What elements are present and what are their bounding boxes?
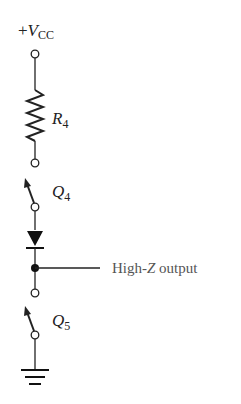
ground-icon xyxy=(21,370,49,384)
vcc-label: +VCC xyxy=(18,21,54,42)
switch-q5 xyxy=(24,289,39,339)
r4-label: R4 xyxy=(51,109,68,131)
output-label: High-Z output xyxy=(112,260,198,276)
circuit-diagram: +VCC R4 Q4 High-Z output Q5 xyxy=(0,0,241,404)
diode xyxy=(26,231,44,248)
q4-label: Q4 xyxy=(52,182,70,204)
resistor-r4 xyxy=(27,90,43,141)
switch-q4 xyxy=(24,159,39,211)
vcc-terminal xyxy=(31,50,39,58)
q5-label: Q5 xyxy=(52,311,70,333)
